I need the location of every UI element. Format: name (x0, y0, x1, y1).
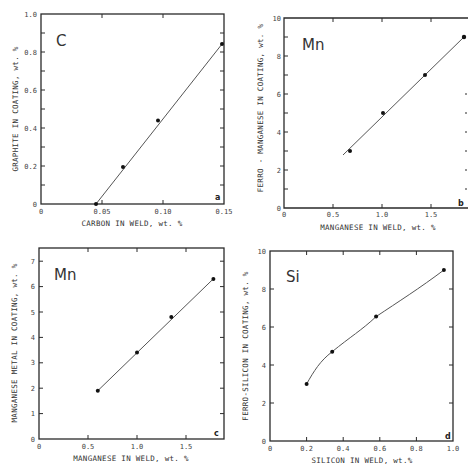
y-axis-label: MANGANESE METAL IN COATING, wt. % (10, 263, 19, 422)
data-point (423, 73, 427, 77)
x-tick-label: 0.05 (94, 208, 111, 216)
x-tick-label: 1.5 (180, 443, 193, 451)
y-ticks (284, 37, 467, 189)
x-tick-label: 0.6 (373, 445, 386, 453)
data-point (220, 42, 224, 46)
data-point (442, 268, 446, 272)
y-tick-label: 0.2 (24, 163, 37, 171)
fit-line (343, 36, 465, 155)
x-tick-label: 0.15 (216, 208, 233, 216)
element-label: Mn (302, 36, 324, 54)
panel-letter: a (215, 193, 220, 202)
y-tick-label: 10 (273, 15, 281, 23)
x-axis-label: MANGANESE IN WELD, wt. % (320, 223, 436, 232)
x-axis-label: CARBON IN WELD, wt. % (81, 219, 182, 228)
x-tick-label: 0.5 (82, 443, 95, 451)
data-point (348, 149, 352, 153)
y-ticks (39, 261, 224, 413)
y-tick-label: 6 (31, 283, 35, 291)
x-tick-label: 0 (268, 445, 272, 453)
y-tick-label: 2 (262, 400, 266, 408)
x-tick-label: 0 (282, 211, 286, 219)
element-label: Si (286, 268, 300, 286)
x-ticks (102, 14, 163, 204)
y-tick-label: 1 (31, 410, 35, 418)
data-point (96, 389, 100, 393)
data-point (135, 351, 139, 355)
x-tick-label: 0.5 (327, 211, 340, 219)
data-point (381, 111, 385, 115)
x-ticks (88, 248, 186, 439)
data-point (94, 202, 98, 206)
y-tick-label: 5 (31, 309, 35, 317)
panel-letter: c (214, 429, 219, 438)
data-point (462, 35, 466, 39)
plot-frame (41, 14, 224, 204)
data-point (169, 315, 173, 319)
x-tick-label: 0.2 (300, 445, 313, 453)
y-tick-label: 10 (258, 248, 266, 256)
x-tick-label: 0 (37, 443, 41, 451)
y-tick-label: 0.6 (24, 87, 37, 95)
y-tick-label: 4 (31, 334, 35, 342)
chart-panel-c: 0 1 2 3 4 5 6 7 0 0.5 1.0 1.5 MANGANESE … (10, 248, 224, 463)
x-tick-label: 0 (39, 208, 43, 216)
y-tick-label: 6 (262, 324, 266, 332)
data-point (374, 315, 378, 319)
y-tick-label: 7 (31, 258, 35, 266)
panel-letter: b (458, 199, 464, 208)
x-tick-label: 0.4 (337, 445, 350, 453)
y-tick-label: 4 (277, 129, 281, 137)
y-tick-label: 0 (33, 201, 37, 209)
chart-panel-d: 0 2 4 6 8 10 0 0.2 0.4 0.6 0.8 1.0 SILIC… (241, 248, 459, 466)
data-point (330, 350, 334, 354)
x-tick-label: 1.0 (131, 443, 144, 451)
y-tick-label: 0.4 (24, 125, 37, 133)
y-tick-label: 2 (31, 385, 35, 393)
data-point (156, 118, 160, 122)
y-tick-label: 2 (277, 167, 281, 175)
element-label: C (56, 32, 66, 50)
y-tick-label: 3 (31, 359, 35, 367)
fit-curve (307, 270, 444, 384)
x-tick-label: 1.5 (425, 211, 438, 219)
fit-line (96, 42, 224, 205)
x-axis-label: MANGANESE IN WELD, wt. % (73, 454, 189, 463)
y-ticks (41, 33, 224, 185)
fit-line (98, 279, 214, 391)
figure: 0 0.2 0.4 0.6 0.8 1.0 0 0.05 0.10 0.15 C… (0, 0, 468, 476)
y-ticks (270, 289, 453, 403)
x-tick-label: 0.10 (155, 208, 172, 216)
x-axis-label: SILICON IN WELD, wt.% (311, 456, 412, 465)
x-ticks (307, 251, 417, 441)
chart-panel-b: 0 2 4 6 8 10 0 0.5 1.0 1.5 MANGANESE IN … (256, 15, 468, 233)
y-tick-label: 0 (262, 438, 266, 446)
panel-letter: d (445, 432, 451, 441)
y-tick-label: 0 (277, 205, 281, 213)
y-axis-label: GRAPHITE IN COATING, wt. % (11, 46, 20, 171)
data-point (305, 382, 309, 386)
element-label: Mn (54, 266, 76, 284)
data-point (211, 277, 215, 281)
y-axis-label: FERRO-SILICON IN COATING, wt. % (241, 271, 250, 420)
y-tick-label: 0.8 (24, 49, 37, 57)
y-tick-label: 8 (277, 53, 281, 61)
x-tick-label: 1.0 (376, 211, 389, 219)
y-tick-label: 1.0 (24, 11, 37, 19)
data-point (121, 165, 125, 169)
chart-panel-a: 0 0.2 0.4 0.6 0.8 1.0 0 0.05 0.10 0.15 C… (11, 11, 232, 229)
x-tick-label: 1.0 (447, 445, 460, 453)
x-tick-label: 0.8 (410, 445, 423, 453)
y-tick-label: 0 (31, 436, 35, 444)
y-tick-label: 8 (262, 286, 266, 294)
y-tick-label: 4 (262, 362, 266, 370)
y-axis-label: FERRO - MANGANESE IN COATING, wt. % (256, 24, 265, 193)
y-tick-label: 6 (277, 91, 281, 99)
